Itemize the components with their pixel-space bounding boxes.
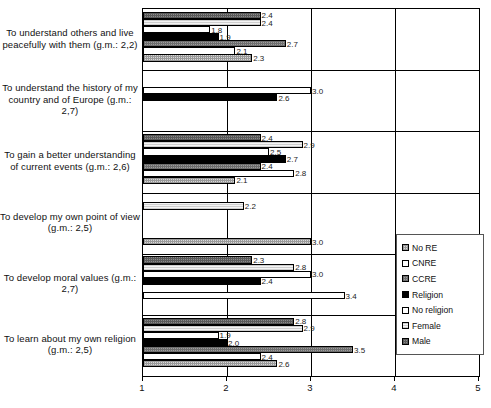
category-label-5: To develop moral values (g.m.: 2,7) (0, 272, 140, 295)
group-separator (143, 131, 479, 132)
bar-male-group-1: 2.4 (143, 12, 261, 19)
legend-item-cnre: CNRE (402, 256, 479, 272)
legend-swatch-religion-icon (402, 291, 409, 298)
bar-no-religion-group-2: 3.0 (143, 87, 311, 94)
bar-female-group-1: 2.4 (143, 19, 261, 26)
legend-label: Male (412, 336, 431, 346)
legend-label: CNRE (412, 258, 436, 268)
bar-religion-group-5: 2.4 (143, 278, 261, 285)
bar-cnre-group-5: 3.4 (143, 292, 345, 299)
bar-female-group-5: 2.8 (143, 264, 294, 271)
bar-value-label: 2.8 (295, 169, 306, 178)
legend-item-religion: Religion (402, 287, 479, 303)
category-label-4: To develop my own point of view (g.m.: 2… (0, 211, 140, 234)
legend-swatch-no-re-icon (402, 244, 409, 251)
category-label-2: To understand the history of my country … (0, 82, 140, 117)
x-tick-4 (394, 377, 395, 381)
category-label-3: To gain a better understanding of curren… (0, 149, 140, 172)
bar-value-label: 3.4 (346, 291, 357, 300)
bar-cnre-group-3: 2.8 (143, 170, 294, 177)
bar-no-religion-group-5: 3.0 (143, 271, 311, 278)
bar-value-label: 2.4 (262, 277, 273, 286)
bar-value-label: 3.0 (312, 86, 323, 95)
x-tick-label-2: 2 (223, 382, 228, 393)
bar-male-group-3: 2.4 (143, 134, 261, 141)
bar-no-re-group-1: 2.3 (143, 54, 252, 61)
bar-no-religion-group-6: 1.9 (143, 332, 219, 339)
legend-swatch-female-icon (402, 322, 409, 329)
legend-label: Religion (412, 290, 443, 300)
x-tick-label-3: 3 (307, 382, 312, 393)
bar-ccre-group-3: 2.4 (143, 163, 261, 170)
bar-value-label: 2.6 (278, 93, 289, 102)
x-tick-5 (478, 377, 479, 381)
bar-ccre-group-1: 2.7 (143, 40, 286, 47)
x-tick-1 (142, 377, 143, 381)
group-separator (143, 70, 479, 71)
bar-value-label: 3.5 (354, 345, 365, 354)
legend-item-no-religion: No religion (402, 302, 479, 318)
legend-swatch-ccre-icon (402, 275, 409, 282)
bar-male-group-5: 2.3 (143, 256, 252, 263)
chart-legend: No RECNRECCREReligionNo religionFemaleMa… (396, 234, 484, 355)
bar-value-label: 2.4 (262, 18, 273, 27)
bar-value-label: 2.9 (304, 140, 315, 149)
bar-ccre-group-6: 3.5 (143, 346, 353, 353)
bar-religion-group-1: 1.9 (143, 33, 219, 40)
category-label-column: To understand others and live peacefully… (0, 8, 140, 377)
bar-value-label: 3.0 (312, 237, 323, 246)
bar-no-re-group-6: 2.6 (143, 360, 277, 367)
legend-label: No religion (412, 305, 453, 315)
bar-religion-group-2: 2.6 (143, 94, 277, 101)
bar-value-label: 2.9 (304, 324, 315, 333)
group-separator (143, 193, 479, 194)
x-tick-label-5: 5 (475, 382, 480, 393)
legend-label: No RE (412, 243, 437, 253)
x-tick-3 (310, 377, 311, 381)
bar-no-re-group-3: 2.1 (143, 177, 235, 184)
bar-value-label: 2.6 (278, 359, 289, 368)
x-tick-label-1: 1 (139, 382, 144, 393)
legend-swatch-cnre-icon (402, 260, 409, 267)
bar-value-label: 2.7 (287, 39, 298, 48)
bar-female-group-4: 2.2 (143, 202, 244, 209)
legend-label: CCRE (412, 274, 436, 284)
bar-value-label: 2.2 (245, 202, 256, 211)
category-label-1: To understand others and live peacefully… (0, 27, 140, 50)
bar-male-group-6: 2.8 (143, 318, 294, 325)
x-axis: 12345 (142, 377, 480, 401)
legend-item-female: Female (402, 318, 479, 334)
legend-item-ccre: CCRE (402, 271, 479, 287)
bar-no-religion-group-3: 2.5 (143, 148, 269, 155)
x-tick-label-4: 4 (391, 382, 396, 393)
legend-item-male: Male (402, 334, 479, 350)
bar-religion-group-6: 2.0 (143, 339, 227, 346)
bar-value-label: 3.0 (312, 270, 323, 279)
bar-no-re-group-4: 3.0 (143, 238, 311, 245)
bar-cnre-group-6: 2.4 (143, 353, 261, 360)
legend-label: Female (412, 321, 441, 331)
bar-no-religion-group-1: 1.8 (143, 26, 210, 33)
legend-swatch-male-icon (402, 338, 409, 345)
legend-item-no-re: No RE (402, 240, 479, 256)
bar-value-label: 2.1 (236, 176, 247, 185)
x-tick-2 (226, 377, 227, 381)
legend-swatch-no-religion-icon (402, 307, 409, 314)
bar-cnre-group-1: 2.1 (143, 47, 235, 54)
bar-value-label: 2.3 (253, 54, 264, 63)
bar-value-label: 2.7 (287, 155, 298, 164)
category-label-6: To learn about my own religion (g.m.: 2,… (0, 333, 140, 356)
horizontal-bar-chart: To understand others and live peacefully… (0, 0, 491, 408)
